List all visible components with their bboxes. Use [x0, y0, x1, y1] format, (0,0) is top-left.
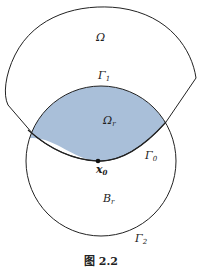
label-omega: Ω	[96, 32, 105, 43]
label-b-r: Br	[103, 193, 114, 206]
label-omega-r-sub: r	[112, 120, 115, 128]
label-gamma2-sub: 2	[143, 238, 147, 246]
figure-caption: 图 2.2	[0, 252, 202, 268]
label-x0: x0	[96, 164, 107, 176]
label-b-r-sub: r	[111, 198, 114, 206]
label-gamma0: Γ0	[145, 150, 157, 163]
label-gamma2: Γ2	[135, 233, 147, 246]
label-gamma1-sub: 1	[106, 75, 110, 83]
label-gamma0-base: Γ	[145, 149, 153, 162]
label-gamma1-base: Γ	[98, 69, 106, 82]
label-x0-sub: 0	[103, 168, 108, 177]
label-omega-r: Ωr	[103, 115, 115, 128]
label-omega-text: Ω	[96, 31, 105, 44]
label-gamma1: Γ1	[98, 70, 110, 83]
label-gamma0-sub: 0	[153, 155, 157, 163]
label-gamma2-base: Γ	[135, 232, 143, 245]
label-omega-r-base: Ω	[103, 114, 112, 127]
label-b-r-base: B	[103, 192, 111, 205]
